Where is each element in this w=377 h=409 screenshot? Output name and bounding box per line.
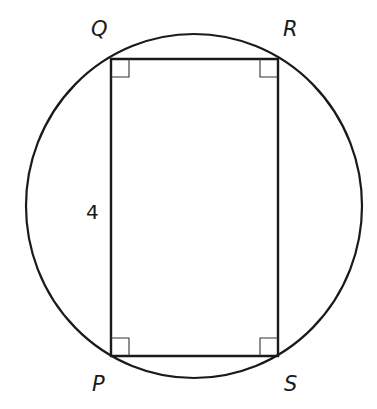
vertex-label-p: P — [92, 374, 105, 395]
circumscribed-circle — [26, 34, 362, 378]
side-length-label-pq: 4 — [86, 202, 99, 222]
right-angle-marker-q — [111, 59, 129, 77]
rectangle-pqrs — [111, 59, 278, 356]
vertex-label-s: S — [284, 374, 297, 395]
right-angle-marker-p — [111, 338, 129, 356]
diagram-canvas — [0, 0, 377, 409]
vertex-label-r: R — [283, 19, 298, 40]
right-angle-marker-s — [260, 338, 278, 356]
right-angle-marker-r — [260, 59, 278, 77]
vertex-label-q: Q — [91, 19, 108, 40]
